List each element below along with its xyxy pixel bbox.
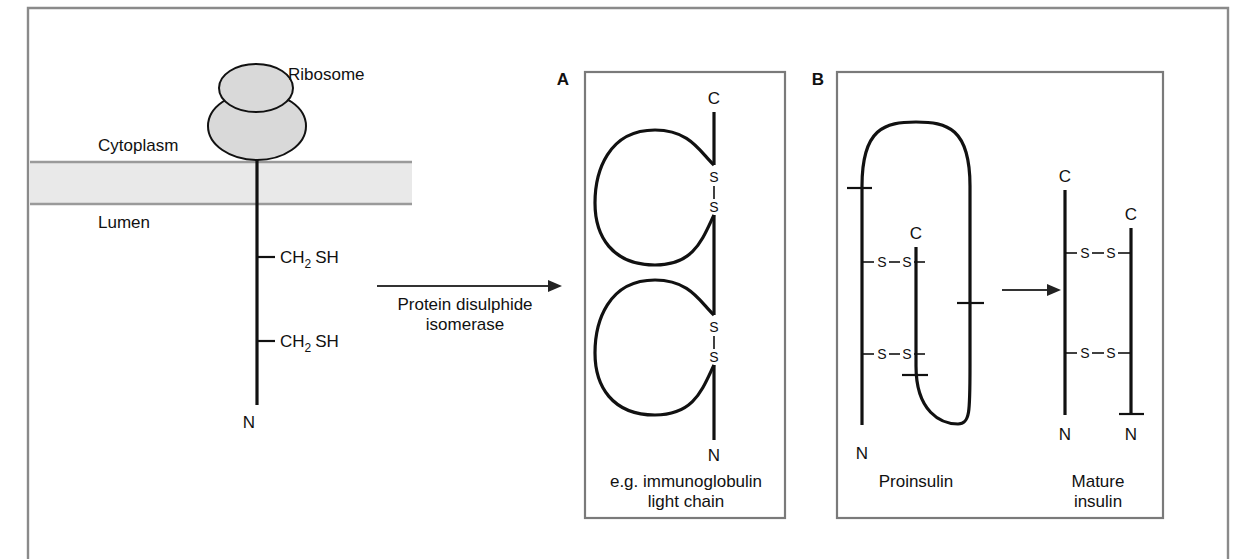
proinsulin-caption: Proinsulin [879, 472, 954, 491]
proinsulin-bond-upper-s1: S [877, 254, 886, 270]
proinsulin-n-terminus: N [856, 444, 868, 463]
panel-a-bond-upper-s2: S [709, 199, 718, 215]
cytoplasm-label: Cytoplasm [98, 136, 178, 155]
panel-a-caption-line2: light chain [648, 492, 725, 511]
mature-insulin-b-n-terminus: N [1125, 425, 1137, 444]
mature-insulin-bond-upper-s1: S [1080, 245, 1089, 261]
side-chain-upper-suffix: SH [315, 248, 339, 267]
membrane-band [30, 162, 412, 204]
side-chain-upper-subscript: 2 [305, 257, 312, 271]
side-chain-lower-label: CH2SH [280, 332, 339, 355]
panel-a-n-terminus: N [708, 446, 720, 465]
panel-b-group: B S S S [812, 70, 1163, 518]
panel-b-letter: B [812, 70, 824, 89]
mature-insulin-caption-line2: insulin [1074, 492, 1122, 511]
mature-insulin-a-n-terminus: N [1059, 425, 1071, 444]
figure-root: Cytoplasm Lumen Ribosome CH2SH CH2SH N P… [0, 0, 1237, 559]
reaction-arrow-head [548, 280, 562, 292]
side-chain-upper-label: CH2SH [280, 248, 339, 271]
panel-a-bond-lower-s2: S [709, 349, 718, 365]
mature-insulin-bond-lower-s2: S [1106, 345, 1115, 361]
panel-a-group: A S S S S C N e.g. immunoglobulin light … [557, 70, 785, 518]
proinsulin-c-terminus: C [910, 224, 922, 243]
enzyme-label-line1: Protein disulphide [397, 295, 532, 314]
ribosome-small-subunit [219, 64, 293, 112]
proinsulin-bond-lower-s2: S [902, 346, 911, 362]
mature-insulin-bond-lower-s1: S [1080, 345, 1089, 361]
mature-insulin-caption-line1: Mature [1072, 472, 1125, 491]
side-chain-lower-prefix: CH [280, 332, 305, 351]
panel-a-bond-lower-s1: S [709, 319, 718, 335]
proinsulin-bond-lower-s1: S [877, 346, 886, 362]
mature-insulin-b-c-terminus: C [1125, 205, 1137, 224]
proinsulin-bond-upper-s2: S [902, 254, 911, 270]
mature-insulin-a-c-terminus: C [1059, 167, 1071, 186]
panel-a-caption-line1: e.g. immunoglobulin [610, 472, 762, 491]
mature-insulin-bond-upper-s2: S [1106, 245, 1115, 261]
panel-b-frame [837, 72, 1163, 518]
panel-a-letter: A [557, 70, 569, 89]
panel-a-c-terminus: C [708, 89, 720, 108]
side-chain-upper-prefix: CH [280, 248, 305, 267]
left-chain-n-terminus: N [243, 413, 255, 432]
panel-a-bond-upper-s1: S [709, 169, 718, 185]
lumen-label: Lumen [98, 213, 150, 232]
side-chain-lower-suffix: SH [315, 332, 339, 351]
side-chain-lower-subscript: 2 [305, 341, 312, 355]
figure-canvas: Cytoplasm Lumen Ribosome CH2SH CH2SH N P… [0, 0, 1237, 559]
reaction-arrow-group: Protein disulphide isomerase [377, 280, 562, 334]
left-panel-group: Cytoplasm Lumen Ribosome CH2SH CH2SH N [30, 64, 412, 432]
enzyme-label-line2: isomerase [426, 315, 504, 334]
ribosome-label: Ribosome [288, 65, 365, 84]
